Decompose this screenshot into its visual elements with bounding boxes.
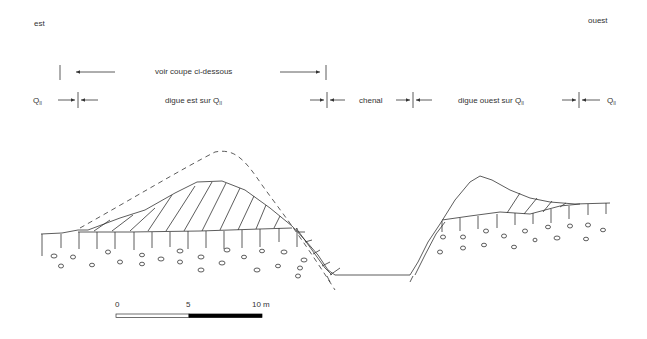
east-levee-hatching xyxy=(94,182,280,231)
channel-west-tick xyxy=(410,276,413,282)
east-levee-top xyxy=(41,181,292,234)
west-substrate-pebbles xyxy=(438,223,606,254)
east-bank-hatching xyxy=(298,232,340,275)
channel-and-west-levee-top xyxy=(292,176,610,275)
annotation-arrows xyxy=(58,65,600,108)
west-substrate-ticks xyxy=(442,203,606,232)
section-profile xyxy=(41,151,610,290)
east-substrate-pebbles xyxy=(51,248,307,278)
scale-bar-white-segment xyxy=(116,314,189,318)
channel-east-tick xyxy=(327,276,330,282)
channel-west-inner-bank xyxy=(415,222,445,275)
west-levee-hatching xyxy=(507,193,566,214)
scale-bar-black-segment xyxy=(189,314,262,318)
cross-section-diagram xyxy=(0,0,647,339)
scale-bar xyxy=(116,314,262,318)
